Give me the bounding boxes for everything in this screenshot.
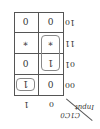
- cell-00-0: 0: [38, 74, 63, 95]
- group-loop-2: [41, 35, 60, 71]
- col-header-1: 1: [14, 100, 39, 109]
- row-variable-label: C1C0: [60, 111, 80, 119]
- row-header-01: 01: [64, 60, 76, 69]
- karnaugh-map: C1C0 Input 0 1 00 01 11 10 0 1 1 0 * * 0…: [0, 0, 100, 129]
- cell-11-1: *: [13, 32, 38, 53]
- kmap-grid: 0 1 1 0 * * 0 0: [14, 12, 64, 96]
- cell-10-1: 0: [13, 11, 38, 32]
- col-header-0: 0: [39, 100, 64, 109]
- group-loop-1: [16, 78, 35, 91]
- row-header-11: 11: [64, 39, 76, 48]
- row-header-10: 10: [64, 18, 76, 27]
- column-variable-label: Input: [75, 103, 94, 111]
- row-header-00: 00: [64, 81, 76, 90]
- cell-10-0: 0: [38, 11, 63, 32]
- cell-01-1: 0: [13, 53, 38, 74]
